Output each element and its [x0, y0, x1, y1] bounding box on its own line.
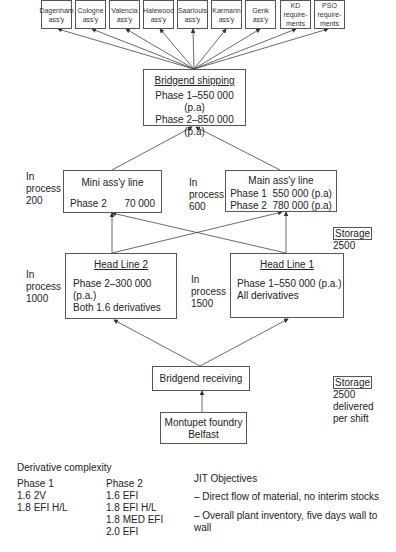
dest-label: Genk — [252, 6, 269, 15]
phase1-heading: Phase 1 — [17, 478, 68, 490]
head-line-2-title: Head Line 2 — [66, 259, 176, 270]
storage-bottom: Storage 2500 delivered per shift — [333, 376, 374, 425]
dest-label: ass'y — [185, 15, 201, 24]
montupet-foundry-box: Montupet foundry Belfast — [160, 412, 247, 444]
destination-saarlouis: Saarlouis ass'y — [177, 0, 208, 29]
destination-genk: Genk ass'y — [245, 0, 276, 29]
mini-line-volume: 70 000 — [124, 198, 155, 209]
mini-assembly-line-box: Mini ass'y line Phase 270 000 — [63, 170, 162, 213]
mini-line-title: Mini ass'y line — [64, 177, 161, 188]
bridgend-receiving-box: Bridgend receiving — [152, 366, 250, 391]
mini-line-wip: Inprocess200 — [26, 171, 61, 207]
shipping-title: Bridgend shipping — [144, 75, 245, 86]
destination-valencia: Valencia ass'y — [109, 0, 140, 29]
destination-halewood: Halewood ass'y — [143, 0, 174, 29]
shipping-phase1: Phase 1–550 000 (p.a) — [144, 90, 245, 114]
shipping-phase2: Phase 2–850 000 (p.a) — [144, 114, 245, 138]
main-line-title: Main ass'y line — [226, 175, 336, 186]
head-line-2-box: Head Line 2 Phase 2–300 000 (p.a.) Both … — [65, 253, 177, 319]
destination-cologne: Cologne ass'y — [75, 0, 106, 29]
dest-label: Valencia — [111, 6, 137, 15]
dest-label: Karmann — [212, 6, 240, 15]
head-line-2-wip: Inprocess1000 — [26, 269, 61, 305]
main-line-phase1: Phase 1 550 000 (p.a) — [226, 188, 336, 200]
dest-label: ass'y — [49, 15, 65, 24]
storage-value: 2500 — [333, 389, 374, 401]
head-line-1-title: Head Line 1 — [231, 259, 343, 270]
phase1-derivatives: Phase 1 1.6 2V 1.8 EFI H/L — [17, 478, 68, 514]
derivative-complexity-title: Derivative complexity — [17, 462, 111, 474]
main-assembly-line-box: Main ass'y line Phase 1 550 000 (p.a) Ph… — [225, 170, 337, 212]
receiving-title: Bridgend receiving — [153, 373, 249, 384]
destination-pso: PSO require- ments — [314, 0, 345, 29]
bridgend-shipping-box: Bridgend shipping Phase 1–550 000 (p.a) … — [143, 69, 246, 126]
dest-label: Cologne — [77, 6, 103, 15]
destination-karmann: Karmann ass'y — [211, 0, 242, 29]
head-line-1-wip: Inprocess1500 — [191, 274, 226, 310]
dest-label: Dagenham — [39, 6, 73, 15]
dest-label: ass'y — [117, 15, 133, 24]
destination-kd: KD require- ments — [280, 0, 311, 29]
jit-title: JIT Objectives — [194, 473, 257, 485]
jit-objective: – Direct flow of material, no interim st… — [194, 491, 379, 503]
head-line-1-derivatives: All derivatives — [231, 290, 343, 302]
dest-label: require- — [283, 10, 307, 19]
mini-line-phase: Phase 2 — [70, 198, 107, 209]
head-line-2-derivatives: Both 1.6 derivatives — [66, 302, 176, 314]
dest-label: ass'y — [151, 15, 167, 24]
dest-label: ass'y — [253, 15, 269, 24]
storage-value: 2500 — [333, 240, 372, 252]
destination-dagenham: Dagenham ass'y — [41, 0, 72, 29]
main-line-phase2: Phase 2 780 000 (p.a) — [226, 200, 336, 212]
dest-label: Saarlouis — [178, 6, 207, 15]
dest-label: KD — [291, 1, 301, 10]
jit-objective: – Overall plant inventory, five days wal… — [194, 510, 396, 534]
dest-label: PSO — [322, 1, 337, 10]
head-line-2-capacity: Phase 2–300 000 (p.a.) — [66, 278, 176, 302]
storage-mid: Storage 2500 — [333, 227, 372, 252]
head-line-1-capacity: Phase 1–550 000 (p.a.) — [231, 278, 343, 290]
foundry-name: Montupet foundry — [161, 417, 246, 429]
dest-label: Halewood — [143, 6, 174, 15]
head-line-1-box: Head Line 1 Phase 1–550 000 (p.a.) All d… — [230, 253, 344, 318]
dest-label: ass'y — [219, 15, 235, 24]
foundry-location: Belfast — [161, 429, 246, 441]
dest-label: require- — [317, 10, 341, 19]
phase2-heading: Phase 2 — [106, 478, 163, 490]
main-line-wip: Inprocess600 — [189, 177, 224, 213]
storage-label: Storage — [333, 376, 372, 389]
storage-label: Storage — [333, 227, 372, 240]
dest-label: ments — [320, 19, 339, 28]
dest-label: ass'y — [83, 15, 99, 24]
phase2-derivatives: Phase 2 1.6 EFI 1.8 EFI H/L 1.8 MED EFI … — [106, 478, 163, 538]
dest-label: ments — [286, 19, 305, 28]
